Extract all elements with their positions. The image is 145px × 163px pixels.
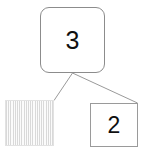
node-right-label: 2 — [108, 114, 121, 137]
node-right[interactable]: 2 — [90, 103, 138, 147]
tree-diagram: 3 2 — [0, 0, 145, 163]
edge-root-to-right-child — [73, 73, 138, 103]
node-left-hatched[interactable] — [5, 100, 54, 146]
edge-root-to-left-child — [54, 73, 73, 101]
node-root-label: 3 — [66, 28, 80, 53]
node-root[interactable]: 3 — [40, 7, 105, 73]
